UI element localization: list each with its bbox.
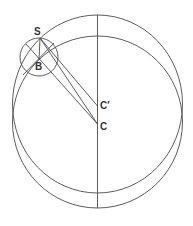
label-b: B <box>35 62 42 72</box>
label-s: S <box>34 27 41 37</box>
line-s-to-c <box>40 38 98 124</box>
line-s-to-b <box>39 38 40 60</box>
line-through-b-to-c <box>26 44 98 124</box>
label-c: C <box>100 122 107 132</box>
label-c-prime: C′ <box>100 101 110 111</box>
geometry-diagram <box>0 0 193 226</box>
